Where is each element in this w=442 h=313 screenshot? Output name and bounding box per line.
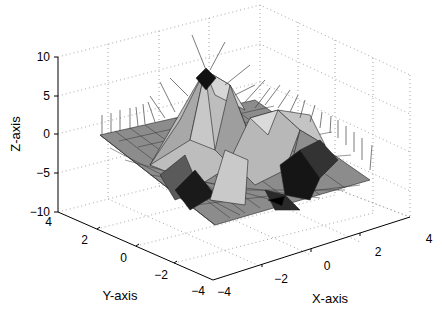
x-tick: 2 [375, 245, 382, 259]
x-tick: 4 [426, 232, 433, 246]
x-tick-labels: −4 −2 0 2 4 [217, 232, 433, 299]
y-tick: −4 [191, 284, 205, 298]
y-tick: 0 [120, 251, 127, 265]
z-tick: 10 [37, 50, 51, 64]
y-tick: −2 [154, 268, 168, 282]
y-tick: 2 [81, 233, 88, 247]
x-tick: −2 [274, 272, 288, 286]
surface-mesh [100, 68, 370, 225]
z-tick-labels: 10 5 0 −5 −10 [30, 50, 51, 219]
y-axis-label: Y-axis [103, 288, 138, 303]
y-tick-labels: 4 2 0 −2 −4 [45, 215, 205, 298]
x-tick: −4 [217, 285, 231, 299]
x-tick: 0 [324, 259, 331, 273]
surface-plot: 10 5 0 −5 −10 4 2 0 −2 −4 −4 −2 0 2 4 Z-… [0, 0, 442, 313]
y-tick: 4 [45, 215, 52, 229]
x-axis-label: X-axis [312, 291, 349, 306]
z-tick: −5 [36, 166, 50, 180]
z-tick: 5 [43, 89, 50, 103]
z-tick: 0 [43, 127, 50, 141]
z-axis-label: Z-axis [8, 116, 23, 152]
